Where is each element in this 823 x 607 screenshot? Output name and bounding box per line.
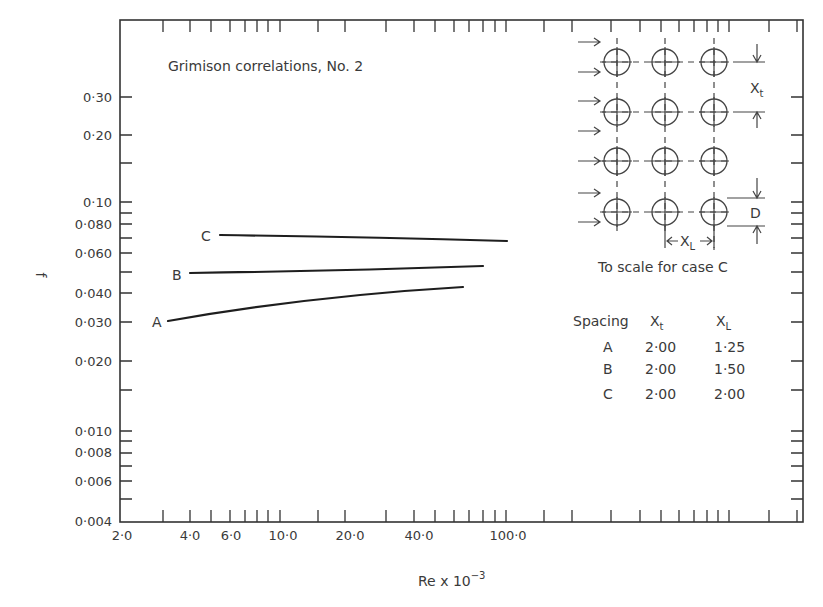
friction-factor-chart: 0·30 0·20 0·10 0·080 0·060 0·040 0·030 0… <box>0 0 823 607</box>
x-tick-labels: 2·0 4·0 6·0 10·0 20·0 40·0 100·0 <box>112 528 527 543</box>
inset-caption: To scale for case C <box>597 259 728 275</box>
y-tick-label: 0·10 <box>83 195 112 210</box>
table-header-xl: XL <box>716 313 732 332</box>
table-cell: 2·00 <box>645 361 676 377</box>
x-tick-label: 20·0 <box>336 528 365 543</box>
x-axis-label-exponent: −3 <box>471 570 486 581</box>
table-cell: B <box>603 361 613 377</box>
xt-label: Xt <box>750 80 764 99</box>
d-label: D <box>750 205 761 221</box>
curve-b <box>190 266 483 273</box>
d-dimension: D <box>727 178 765 244</box>
table-header-spacing: Spacing <box>573 313 629 329</box>
y-tick-label: 0·010 <box>75 424 112 439</box>
table-cell: 2·00 <box>645 386 676 402</box>
xt-dimension: Xt <box>733 44 765 128</box>
y-tick-label: 0·060 <box>75 246 112 261</box>
table-header-xt: Xt <box>650 313 664 332</box>
chart-title: Grimison correlations, No. 2 <box>168 58 363 74</box>
y-tick-label: 0·008 <box>75 445 112 460</box>
y-tick-label: 0·20 <box>83 128 112 143</box>
tube-bank-diagram: Xt D XL To scale for case C <box>578 38 765 275</box>
curve-a <box>168 287 463 321</box>
x-tick-label: 40·0 <box>405 528 434 543</box>
y-tick-labels: 0·30 0·20 0·10 0·080 0·060 0·040 0·030 0… <box>75 90 112 529</box>
xl-dimension: XL <box>665 226 714 252</box>
x-tick-label: 6·0 <box>221 528 242 543</box>
y-tick-label: 0·030 <box>75 315 112 330</box>
x-tick-label: 4·0 <box>180 528 201 543</box>
y-axis-ticks <box>120 97 803 499</box>
table-cell: 2·00 <box>714 386 745 402</box>
y-axis-label: f <box>33 273 49 279</box>
y-tick-label: 0·006 <box>75 474 112 489</box>
y-tick-label: 0·30 <box>83 90 112 105</box>
curve-label-b: B <box>172 267 182 283</box>
xl-label: XL <box>680 233 696 252</box>
x-axis-label-base: Re x 10 <box>418 573 471 589</box>
curve-label-a: A <box>152 314 162 330</box>
table-cell: A <box>603 339 613 355</box>
y-tick-label: 0·080 <box>75 217 112 232</box>
curves <box>168 235 507 321</box>
y-tick-label: 0·004 <box>75 514 112 529</box>
spacing-table: Spacing Xt XL A 2·00 1·25 B 2·00 1·50 C … <box>573 313 745 402</box>
curve-label-c: C <box>201 228 211 244</box>
y-tick-label: 0·020 <box>75 354 112 369</box>
table-cell: 1·25 <box>714 339 745 355</box>
table-cell: C <box>603 386 613 402</box>
curve-c <box>220 235 507 241</box>
flow-arrows <box>578 38 600 226</box>
table-cell: 1·50 <box>714 361 745 377</box>
x-tick-label: 10·0 <box>269 528 298 543</box>
x-tick-label: 2·0 <box>112 528 133 543</box>
x-tick-label: 100·0 <box>489 528 526 543</box>
x-axis-label: Re x 10−3 <box>418 570 485 589</box>
y-tick-label: 0·040 <box>75 286 112 301</box>
table-cell: 2·00 <box>645 339 676 355</box>
